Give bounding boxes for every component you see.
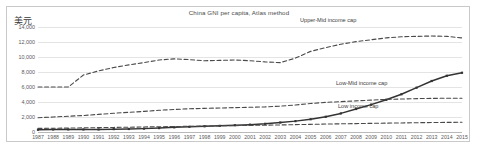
x-tick-label: 1999 (214, 134, 226, 140)
data-point-marker (446, 75, 448, 77)
x-tick-label: 2012 (411, 134, 423, 140)
data-point-marker (264, 123, 266, 125)
data-point-marker (340, 112, 342, 114)
data-point-marker (37, 129, 39, 131)
data-point-marker (415, 87, 417, 89)
plot-area: 14,00012,00010,0008,0006,0004,0002,0000 … (38, 27, 462, 132)
x-tick-label: 2002 (259, 134, 271, 140)
x-tick-label: 1991 (93, 134, 105, 140)
x-tick-label: 1990 (78, 134, 90, 140)
y-tick-label: 4,000 (22, 99, 36, 105)
x-tick-label: 2004 (290, 134, 302, 140)
data-point-marker (128, 128, 130, 130)
x-tick-label: 1996 (169, 134, 181, 140)
x-tick-label: 2008 (350, 134, 362, 140)
x-tick-label: 1989 (63, 134, 75, 140)
y-tick-label: 6,000 (22, 84, 36, 90)
data-point-marker (279, 121, 281, 123)
y-tick-label: 8,000 (22, 69, 36, 75)
data-point-marker (97, 128, 99, 130)
x-tick-label: 1988 (47, 134, 59, 140)
series-line (38, 36, 462, 87)
data-point-marker (82, 128, 84, 130)
x-tick-label: 2007 (335, 134, 347, 140)
data-point-marker (294, 120, 296, 122)
data-point-marker (143, 128, 145, 130)
x-tick-label: 1994 (138, 134, 150, 140)
x-tick-label: 2005 (305, 134, 317, 140)
x-tick-label: 2015 (456, 134, 468, 140)
data-point-marker (325, 116, 327, 118)
x-tick-label: 1987 (32, 134, 44, 140)
data-point-marker (113, 128, 115, 130)
x-tick-label: 2000 (229, 134, 241, 140)
x-tick-label: 1995 (153, 134, 165, 140)
series-line (38, 122, 462, 128)
x-tick-label: 2009 (365, 134, 377, 140)
y-tick-label: 12,000 (19, 39, 36, 45)
y-tick-label: 2,000 (22, 114, 36, 120)
data-point-marker (309, 118, 311, 120)
x-tick-label: 1992 (108, 134, 120, 140)
y-tick-label: 10,000 (19, 54, 36, 60)
data-point-marker (158, 127, 160, 129)
chart-title: China GNI per capita, Atlas method (0, 9, 478, 16)
data-point-marker (431, 80, 433, 82)
x-tick-label: 2001 (244, 134, 256, 140)
data-point-marker (400, 93, 402, 95)
annotation-low-income-cap: Low income cap (338, 103, 378, 109)
annotation-low-mid-income-cap: Low-Mid income cap (336, 80, 387, 86)
x-tick-label: 1998 (199, 134, 211, 140)
x-tick-label: 2014 (441, 134, 453, 140)
series-line (38, 98, 462, 118)
y-tick-label: 14,000 (19, 24, 36, 30)
x-tick-label: 2010 (381, 134, 393, 140)
chart-container: China GNI per capita, Atlas method 美元 14… (0, 0, 478, 158)
annotation-upper-mid-income-cap: Upper-Mid income cap (300, 17, 356, 23)
x-tick-label: 2006 (320, 134, 332, 140)
x-tick-label: 1997 (184, 134, 196, 140)
x-tick-label: 2011 (396, 134, 407, 140)
x-tick-label: 1993 (123, 134, 135, 140)
series-line (38, 73, 462, 130)
data-point-marker (461, 72, 463, 74)
x-tick-label: 2003 (275, 134, 287, 140)
x-tick-label: 2013 (426, 134, 438, 140)
series-layer (38, 27, 462, 132)
gridline (38, 132, 462, 133)
